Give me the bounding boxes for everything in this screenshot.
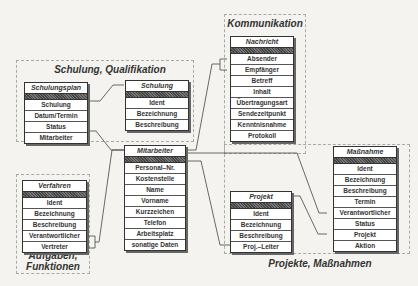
field-row: Betreff	[231, 76, 293, 87]
field-row: Kostenstelle	[125, 174, 185, 185]
field-row: Ident	[23, 198, 86, 209]
entity-mitarbeiter: Mitarbeiter Personal–Nr. Kostenstelle Na…	[124, 145, 186, 251]
entity-title: Verfahren	[23, 181, 86, 192]
field-row: Kurzzeichen	[125, 207, 185, 218]
entity-projekt: Projekt Ident Bezeichnung Beschreibung P…	[230, 191, 292, 253]
field-row: Schulung	[25, 100, 87, 111]
entity-verfahren: Verfahren Ident Bezeichnung Beschreibung…	[22, 180, 87, 253]
field-row: Proj.–Leiter	[231, 242, 291, 252]
field-row: Verantwortlicher	[334, 208, 396, 219]
field-row: Ident	[126, 98, 188, 109]
field-row: Bezeichnung	[126, 109, 188, 120]
field-row: Bezeichnung	[231, 220, 291, 231]
field-row: Telefon	[125, 218, 185, 229]
field-row: Beschreibung	[231, 231, 291, 242]
entity-title: Projekt	[231, 192, 291, 203]
field-row: Arbeitsplatz	[125, 229, 185, 240]
entity-title: Schulung	[126, 81, 188, 92]
field-row: Beschreibung	[23, 220, 86, 231]
field-row: Name	[125, 185, 185, 196]
entity-title: Schulungsplan	[25, 83, 87, 94]
field-row: Beschreibung	[126, 120, 188, 130]
field-row: Übertragungsart	[231, 98, 293, 109]
field-row: Status	[334, 219, 396, 230]
field-row: Vertreter	[23, 242, 86, 252]
field-row: Inhalt	[231, 87, 293, 98]
field-row: Datum/Termin	[25, 111, 87, 122]
field-row: Beschreibung	[334, 186, 396, 197]
entity-massnahme: Maßnahme Ident Bezeichnung Beschreibung …	[333, 146, 397, 252]
field-row: Ident	[334, 164, 396, 175]
entity-title: Maßnahme	[334, 147, 396, 158]
field-row: Personal–Nr.	[125, 163, 185, 174]
field-row: Vorname	[125, 196, 185, 207]
field-row: Bezeichnung	[334, 175, 396, 186]
entity-schulungsplan: Schulungsplan Schulung Datum/Termin Stat…	[24, 82, 88, 144]
field-row: Status	[25, 122, 87, 133]
field-row: Ident	[231, 209, 291, 220]
field-row: Mitarbeiter	[25, 133, 87, 143]
field-row: Empfänger	[231, 65, 293, 76]
field-row: sonatige Daten	[125, 240, 185, 250]
field-row: Protokoll	[231, 131, 293, 141]
field-row: Absender	[231, 54, 293, 65]
field-row: Bezeichnung	[23, 209, 86, 220]
field-row: Verantwortlicher	[23, 231, 86, 242]
field-row: Aktion	[334, 241, 396, 251]
field-row: Termin	[334, 197, 396, 208]
entity-nachricht: Nachricht Absender Empfänger Betreff Inh…	[230, 36, 294, 142]
field-row: Kenntnisnahme	[231, 120, 293, 131]
entity-schulung: Schulung Ident Bezeichnung Beschreibung	[125, 80, 189, 131]
field-row: Projekt	[334, 230, 396, 241]
field-row: Sendezeitpunkt	[231, 109, 293, 120]
entity-title: Nachricht	[231, 37, 293, 48]
entity-title: Mitarbeiter	[125, 146, 185, 157]
